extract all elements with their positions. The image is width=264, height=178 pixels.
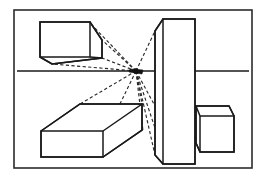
box-upper-left [40, 22, 102, 64]
slab-center-silhouette [155, 19, 195, 164]
perspective-diagram-canvas [0, 0, 264, 178]
box-lower-right-silhouette [196, 106, 234, 152]
box-lower-right [196, 106, 234, 152]
slab-center [155, 19, 195, 164]
perspective-figure [0, 0, 264, 178]
